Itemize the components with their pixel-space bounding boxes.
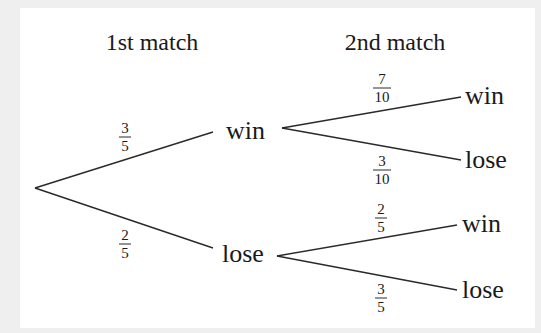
header-first-match: 1st match	[106, 29, 199, 55]
fraction-numerator: 3	[378, 153, 386, 169]
outcome-first-win: win	[226, 116, 265, 145]
fraction-numerator: 3	[377, 281, 385, 297]
fraction-denominator: 5	[377, 219, 385, 235]
outcome-lose-win: win	[462, 209, 501, 238]
fraction-denominator: 10	[375, 171, 390, 187]
branch-lose-win	[277, 225, 457, 256]
branch-win-lose	[282, 128, 461, 160]
outcome-win-lose: lose	[465, 145, 507, 174]
outcome-lose-lose: lose	[462, 275, 504, 304]
probability-first-lose: 2 5	[119, 227, 131, 261]
probability-lose-lose: 3 5	[375, 281, 387, 315]
branch-win-win	[282, 97, 461, 128]
probability-win-win: 7 10	[373, 71, 391, 105]
fraction-denominator: 10	[375, 89, 390, 105]
header-second-match: 2nd match	[345, 29, 446, 55]
outcome-first-lose: lose	[222, 239, 264, 268]
fraction-numerator: 3	[121, 120, 129, 136]
outcome-win-win: win	[465, 81, 504, 110]
fraction-numerator: 7	[378, 71, 386, 87]
branch-lose-lose	[277, 256, 457, 290]
probability-tree: 1st match 2nd match win lose 3 5 2 5 win…	[0, 0, 541, 333]
probability-lose-win: 2 5	[375, 201, 387, 235]
fraction-denominator: 5	[121, 138, 129, 154]
fraction-numerator: 2	[377, 201, 385, 217]
fraction-denominator: 5	[121, 245, 129, 261]
probability-win-lose: 3 10	[373, 153, 391, 187]
fraction-numerator: 2	[121, 227, 129, 243]
fraction-denominator: 5	[377, 299, 385, 315]
probability-first-win: 3 5	[119, 120, 131, 154]
